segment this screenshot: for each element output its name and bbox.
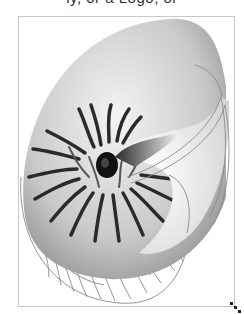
resize-grip-icon[interactable] bbox=[228, 300, 242, 314]
image-frame[interactable] bbox=[18, 16, 235, 307]
caption-text-cut-off: ly, or a Logo, or bbox=[0, 0, 244, 6]
nautilus-shell-illustration bbox=[19, 17, 235, 307]
